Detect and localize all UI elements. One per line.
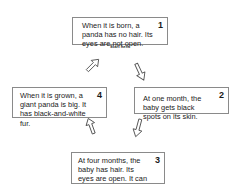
stage-2-text: At one month, the baby gets black spots … xyxy=(143,94,201,121)
stage-2-box: At one month, the baby gets black spots … xyxy=(134,87,229,114)
stage-3-text: At four months, the baby has hair. Its e… xyxy=(78,156,147,186)
arrow-down-right-icon xyxy=(132,62,148,82)
stage-3-box: At four months, the baby has hair. Its e… xyxy=(71,152,165,184)
stage-2-number: 2 xyxy=(219,90,224,100)
stage-1-number: 1 xyxy=(158,20,163,30)
stage-1-box: When it is born, a panda has no hair. It… xyxy=(72,17,168,45)
arrow-up-right-icon xyxy=(84,56,102,74)
stage-4-number: 4 xyxy=(97,90,102,100)
stage-4-text: When it is grown, a giant panda is big. … xyxy=(20,91,86,128)
arrow-down-left-icon xyxy=(131,118,145,138)
stage-3-number: 3 xyxy=(155,155,160,165)
arrow-up-icon xyxy=(84,117,98,135)
stage-4-box: When it is grown, a giant panda is big. … xyxy=(12,87,107,118)
start-here-label: Start here xyxy=(110,44,130,49)
